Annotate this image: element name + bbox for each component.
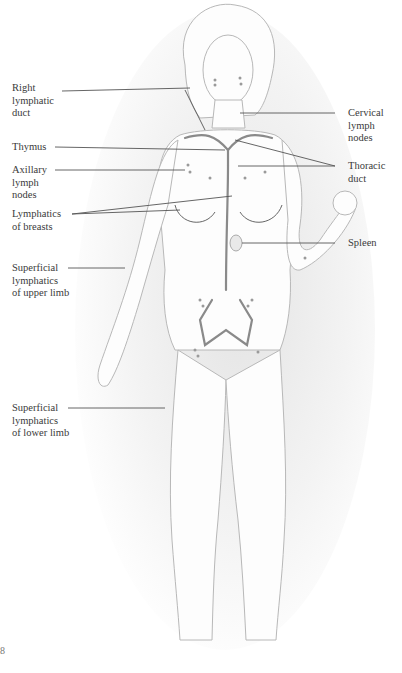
label-axillary-lymph-nodes: Axillary lymph nodes (12, 164, 47, 202)
label-line: lymphatics (12, 415, 69, 428)
label-cervical-lymph-nodes: Cervical lymph nodes (348, 107, 384, 145)
label-line: Right (12, 82, 54, 95)
label-line: Cervical (348, 107, 384, 120)
label-line: lymph (12, 177, 47, 190)
label-line: nodes (348, 132, 384, 145)
label-lymphatics-of-breasts: Lymphatics of breasts (12, 208, 61, 233)
label-line: Spleen (348, 237, 377, 250)
label-line: of upper limb (12, 287, 69, 300)
label-line: lymphatics (12, 275, 69, 288)
label-right-lymphatic-duct: Right lymphatic duct (12, 82, 54, 120)
label-line: duct (348, 173, 385, 186)
label-line: Thoracic (348, 160, 385, 173)
label-superficial-lymphatics-upper-limb: Superficial lymphatics of upper limb (12, 262, 69, 300)
label-spleen: Spleen (348, 237, 377, 250)
label-line: of breasts (12, 221, 61, 234)
label-line: lymphatic (12, 95, 54, 108)
label-line: Superficial (12, 262, 69, 275)
label-line: Superficial (12, 402, 69, 415)
label-line: lymph (348, 120, 384, 133)
label-line: duct (12, 107, 54, 120)
body-illustration (0, 0, 402, 673)
label-line: Lymphatics (12, 208, 61, 221)
page-number-fragment: 8 (0, 645, 5, 656)
label-line: Axillary (12, 164, 47, 177)
label-line: of lower limb (12, 427, 69, 440)
label-line: nodes (12, 189, 47, 202)
lymphatic-system-diagram: Right lymphatic duct Thymus Axillary lym… (0, 0, 402, 673)
label-superficial-lymphatics-lower-limb: Superficial lymphatics of lower limb (12, 402, 69, 440)
label-line: Thymus (12, 141, 46, 154)
label-thymus: Thymus (12, 141, 46, 154)
label-thoracic-duct: Thoracic duct (348, 160, 385, 185)
